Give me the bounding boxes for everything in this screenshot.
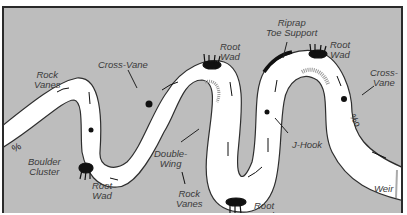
- weir-icon: [396, 170, 397, 198]
- label-rock-vanes-left: Rock Vanes: [34, 70, 61, 90]
- label-boulder-cluster: Boulder Cluster: [28, 157, 61, 177]
- root-wad-icon: [309, 44, 327, 58]
- boulder-icon: [146, 101, 153, 108]
- label-rock-vanes-bottom: Rock Vanes: [176, 189, 203, 209]
- label-double-wing: Double- Wing: [154, 149, 187, 169]
- label-root-wad-top-right: Root Wad: [330, 40, 350, 60]
- label-weir: Weir: [374, 184, 393, 194]
- root-wad-icon: [79, 163, 93, 180]
- label-j-hook: J-Hook: [292, 140, 322, 150]
- label-cross-vane-right: Cross- Vane: [370, 68, 398, 88]
- label-riprap-toe-support: Riprap Toe Support: [266, 18, 317, 38]
- label-cross-vane-left: Cross-Vane: [98, 60, 148, 70]
- label-root-wad-top-middle: Root Wad: [220, 42, 240, 62]
- label-root-wad-bottom-left: Root Wad: [92, 181, 112, 201]
- boulder-icon: [89, 128, 94, 133]
- river-channel: [4, 50, 403, 212]
- root-wad-icon: [203, 54, 221, 69]
- boulder-icon: [341, 96, 347, 102]
- boulder-icon: [265, 110, 270, 115]
- diagram-frame: % %o Rock Vanes Cross-Vane Root Wad Ripr…: [2, 6, 403, 213]
- label-root-wad-bottom-middle: Root Wad: [254, 201, 274, 213]
